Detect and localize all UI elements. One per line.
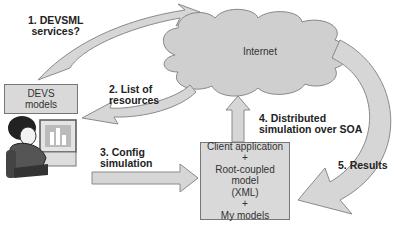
client-line4: My models [221, 210, 269, 222]
step-3-line2: simulation [100, 158, 153, 169]
step-2-label: 2. List of resources [109, 84, 159, 106]
client-line1: Client application [207, 141, 283, 153]
step-1-line2: services? [28, 26, 83, 37]
step-1-label: 1. DEVSML services? [28, 15, 83, 37]
user-at-computer-illustration [6, 116, 76, 178]
client-plus1: + [242, 152, 248, 164]
step-4-line2: simulation over SOA [259, 124, 362, 135]
client-line3: (XML) [231, 187, 258, 199]
client-application-box: Client application + Root-coupled model … [200, 142, 290, 220]
client-plus2: + [242, 198, 248, 210]
step-2-line2: resources [109, 95, 159, 106]
client-line2: Root-coupled model [201, 164, 289, 187]
devs-models-box: DEVS models [4, 84, 78, 114]
step-5-label: 5. Results [338, 160, 388, 171]
devs-line2: models [25, 99, 57, 111]
step-5-line1: 5. Results [338, 160, 388, 171]
devs-line1: DEVS [27, 88, 54, 100]
step-4-label: 4. Distributed simulation over SOA [259, 113, 362, 135]
step-3-label: 3. Config simulation [100, 147, 153, 169]
internet-label: Internet [243, 46, 277, 57]
arrow-distributed-simulation [226, 96, 250, 142]
